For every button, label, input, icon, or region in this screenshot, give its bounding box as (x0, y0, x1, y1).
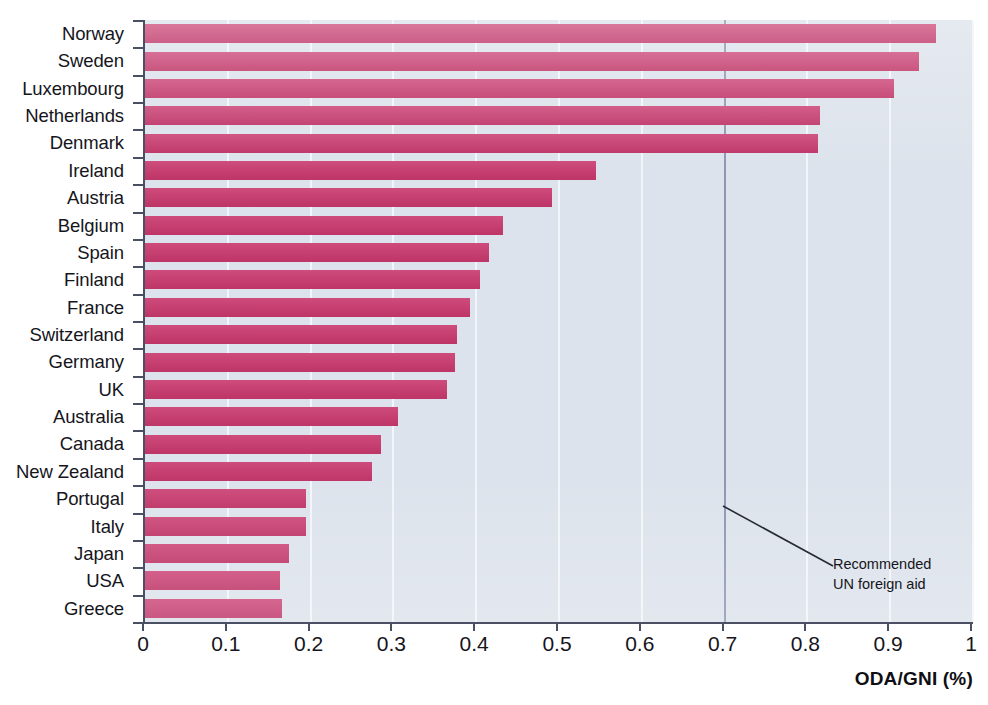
bar (145, 243, 489, 262)
reference-line-annotation: Recommended UN foreign aid (833, 554, 931, 594)
bar (145, 380, 447, 399)
bar (145, 52, 919, 71)
x-axis-tick (887, 622, 889, 631)
bar (145, 216, 503, 235)
x-axis-tick-label: 0.5 (542, 632, 571, 656)
bar (145, 353, 455, 372)
y-axis-label: France (67, 294, 124, 321)
y-axis-tick (133, 513, 143, 515)
plot-area (143, 20, 973, 622)
bar (145, 134, 818, 153)
bar (145, 24, 936, 43)
y-axis-tick (133, 622, 143, 624)
x-axis-tick (804, 622, 806, 631)
y-axis-tick (133, 540, 143, 542)
x-axis-tick (722, 622, 724, 631)
y-axis-label: Spain (77, 239, 124, 266)
y-axis-label: UK (99, 376, 125, 403)
y-axis-label: Japan (74, 540, 124, 567)
y-axis-label: Ireland (68, 157, 124, 184)
x-axis-line (143, 622, 973, 624)
bar (145, 489, 306, 508)
x-axis-tick (308, 622, 310, 631)
x-axis-tick-label: 1 (965, 632, 977, 656)
bar (145, 188, 552, 207)
y-axis-label: Austria (67, 184, 124, 211)
y-axis-label: Switzerland (29, 321, 124, 348)
y-axis-tick (133, 321, 143, 323)
y-axis-label: Finland (64, 266, 124, 293)
y-axis-label: Netherlands (25, 102, 124, 129)
x-axis-tick-label: 0.1 (211, 632, 240, 656)
x-axis-tick-label: 0.6 (625, 632, 654, 656)
y-axis-tick (133, 184, 143, 186)
bar (145, 407, 398, 426)
annotation-line-2: UN foreign aid (833, 574, 931, 594)
bar (145, 106, 820, 125)
annotation-line-1: Recommended (833, 554, 931, 574)
bar (145, 298, 470, 317)
x-axis-tick (390, 622, 392, 631)
y-axis-label: Norway (62, 20, 124, 47)
y-axis-tick (133, 239, 143, 241)
y-axis-label: Luxembourg (22, 75, 124, 102)
y-axis-label: Canada (60, 430, 124, 457)
y-axis-tick (133, 430, 143, 432)
y-axis-tick (133, 157, 143, 159)
bar (145, 325, 457, 344)
bar-chart: NorwaySwedenLuxembourgNetherlandsDenmark… (0, 0, 988, 705)
x-axis-tick-label: 0.8 (791, 632, 820, 656)
x-axis-tick (639, 622, 641, 631)
y-axis-tick (133, 485, 143, 487)
y-axis-tick (133, 212, 143, 214)
bar (145, 270, 480, 289)
bar (145, 544, 289, 563)
y-axis-tick (133, 129, 143, 131)
y-axis-tick (133, 458, 143, 460)
bar (145, 161, 596, 180)
y-axis-label: New Zealand (16, 458, 124, 485)
y-axis-label: Italy (91, 513, 124, 540)
bar (145, 599, 282, 618)
y-axis-tick (133, 595, 143, 597)
x-axis-tick (556, 622, 558, 631)
x-axis-tick (473, 622, 475, 631)
y-axis-tick (133, 75, 143, 77)
y-axis-label: Greece (64, 595, 124, 622)
y-axis-tick (133, 102, 143, 104)
y-axis-label: Germany (49, 348, 124, 375)
y-axis-label: USA (86, 567, 124, 594)
x-axis-tick (225, 622, 227, 631)
x-axis-tick-label: 0.4 (460, 632, 489, 656)
y-axis-tick (133, 567, 143, 569)
bar (145, 462, 372, 481)
y-axis-label: Australia (53, 403, 124, 430)
y-axis-tick (133, 348, 143, 350)
y-axis-tick (133, 403, 143, 405)
y-axis-label: Denmark (50, 129, 124, 156)
x-axis-tick (970, 622, 972, 631)
x-axis-tick-label: 0.2 (294, 632, 323, 656)
gridline-1 (972, 20, 974, 622)
y-axis-tick (133, 376, 143, 378)
y-axis-label: Belgium (58, 212, 124, 239)
y-axis-label: Portugal (56, 485, 124, 512)
x-axis-tick-label: 0.9 (874, 632, 903, 656)
x-axis-tick-label: 0 (137, 632, 149, 656)
y-axis-tick (133, 47, 143, 49)
x-axis-tick-label: 0.3 (377, 632, 406, 656)
gridline-0.9 (889, 20, 891, 622)
x-axis-tick-label: 0.7 (708, 632, 737, 656)
y-axis-tick (133, 20, 143, 22)
y-axis-label: Sweden (58, 47, 124, 74)
y-axis-category-labels: NorwaySwedenLuxembourgNetherlandsDenmark… (0, 20, 133, 622)
bar (145, 435, 381, 454)
bar (145, 517, 306, 536)
y-axis-tick (133, 294, 143, 296)
bar (145, 571, 280, 590)
y-axis-tick (133, 266, 143, 268)
x-axis-title: ODA/GNI (%) (855, 668, 973, 690)
bar (145, 79, 894, 98)
